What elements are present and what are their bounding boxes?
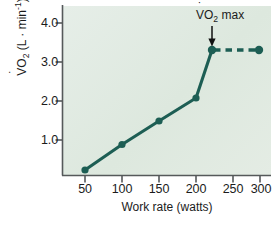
y-axis-label: VO2 (L · min-1) (15, 0, 29, 76)
data-line-solid (85, 50, 212, 170)
annotation-rest: max (218, 8, 244, 22)
annotation-arrow-icon (208, 26, 215, 47)
annotation-o: O (204, 8, 213, 22)
x-axis-label: Work rate (watts) (63, 200, 271, 214)
y-axis-label-subscript: 2 (21, 54, 31, 59)
data-point (255, 46, 263, 54)
y-axis-label-units-open: (L · min (15, 10, 29, 54)
annotation-v-dot-glyph: V (196, 8, 204, 22)
x-tick-labels: 50 100 150 200 250 300 (0, 182, 277, 200)
x-tick-label: 100 (102, 182, 142, 196)
vo2-max-annotation: VO2 max (196, 8, 244, 22)
x-tick-label: 300 (241, 182, 277, 196)
data-point (81, 166, 88, 173)
chart-figure: 4.0 3.0 2.0 1.0 50 100 150 200 250 300 W… (0, 0, 277, 226)
x-tick-label: 200 (176, 182, 216, 196)
y-tick-label: 1.0 (24, 133, 58, 147)
x-tick-label: 50 (65, 182, 105, 196)
data-point (192, 94, 199, 101)
y-axis-label-units-exponent: -1 (13, 2, 23, 10)
x-tick-label: 150 (139, 182, 179, 196)
y-axis-label-o: O (15, 58, 29, 67)
data-point (208, 46, 216, 54)
y-axis-label-units-close: ) (15, 0, 29, 2)
data-point (155, 117, 162, 124)
v-dot-glyph: V (15, 68, 29, 76)
data-point (118, 141, 125, 148)
y-axis-label-wrapper: VO2 (L · min-1) (11, 0, 33, 122)
